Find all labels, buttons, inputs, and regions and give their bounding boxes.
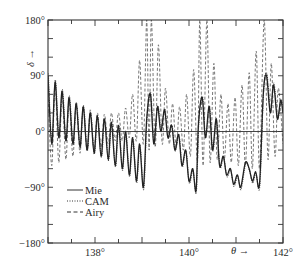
x-axis-label: θ → xyxy=(231,245,249,256)
y-axis-label: δ → xyxy=(25,49,36,67)
phase-shift-chart: 180°90°0°−90°−180° 138°140°142° δ → θ → … xyxy=(0,0,307,271)
legend-label-cam: CAM xyxy=(85,196,110,207)
legend-label-mie: Mie xyxy=(85,185,102,196)
x-tick-label: 142° xyxy=(273,247,293,258)
airy-curve xyxy=(48,20,283,169)
y-tick-label: 90° xyxy=(30,70,45,81)
x-tick-labels: 138°140°142° xyxy=(85,247,293,258)
y-tick-label: 180° xyxy=(25,15,45,26)
plot-area xyxy=(48,20,283,194)
legend-label-airy: Airy xyxy=(85,207,105,218)
y-tick-label: 0° xyxy=(36,126,45,137)
y-tick-label: −90° xyxy=(24,182,45,193)
x-tick-label: 138° xyxy=(85,247,105,258)
y-tick-label: −180° xyxy=(19,238,45,249)
axes xyxy=(48,20,283,243)
x-tick-label: 140° xyxy=(179,247,199,258)
legend: MieCAMAiry xyxy=(67,185,110,218)
